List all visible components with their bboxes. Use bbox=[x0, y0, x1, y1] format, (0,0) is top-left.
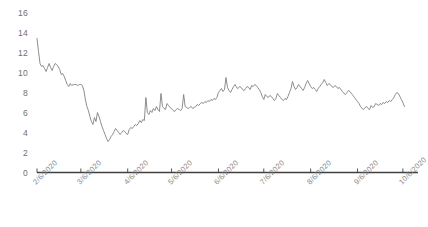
y-axis-tick-label: 4 bbox=[2, 128, 28, 138]
y-axis-tick-label: 0 bbox=[2, 168, 28, 178]
series-line-price bbox=[37, 39, 404, 142]
y-axis-tick-label: 8 bbox=[2, 88, 28, 98]
series-line-group bbox=[37, 39, 404, 142]
y-axis-tick-label: 14 bbox=[2, 28, 28, 38]
y-axis-tick-label: 2 bbox=[2, 148, 28, 158]
y-axis-tick-label: 16 bbox=[2, 8, 28, 18]
y-axis-tick-label: 12 bbox=[2, 48, 28, 58]
y-axis-tick-label: 6 bbox=[2, 108, 28, 118]
y-axis-tick-label: 10 bbox=[2, 68, 28, 78]
